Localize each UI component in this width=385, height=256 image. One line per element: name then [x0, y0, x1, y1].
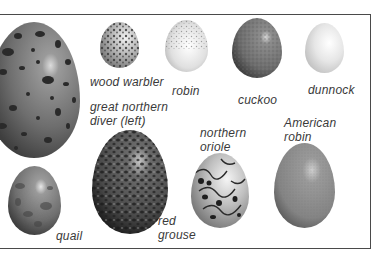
label-line: great northern	[90, 100, 168, 114]
label-line: red	[158, 214, 196, 228]
label-red-grouse: red grouse	[158, 214, 196, 242]
label-wood-warbler: wood warbler	[90, 75, 164, 89]
label-american-robin: American robin	[284, 116, 336, 144]
egg-dunnock	[305, 23, 344, 73]
egg-wood-warbler	[100, 22, 139, 68]
label-cuckoo: cuckoo	[238, 93, 277, 107]
label-northern-oriole: northern oriole	[200, 126, 246, 154]
label-line: American	[284, 116, 336, 130]
label-robin: robin	[172, 84, 200, 98]
label-line: robin	[284, 130, 336, 144]
label-line: oriole	[200, 140, 246, 154]
label-dunnock: dunnock	[308, 83, 355, 97]
egg-cuckoo	[232, 18, 282, 78]
label-quail: quail	[56, 229, 82, 243]
label-line: northern	[200, 126, 246, 140]
label-line: diver (left)	[90, 114, 168, 128]
label-great-northern-diver: great northern diver (left)	[90, 100, 168, 128]
label-line: grouse	[158, 228, 196, 242]
egg-robin	[165, 20, 208, 72]
